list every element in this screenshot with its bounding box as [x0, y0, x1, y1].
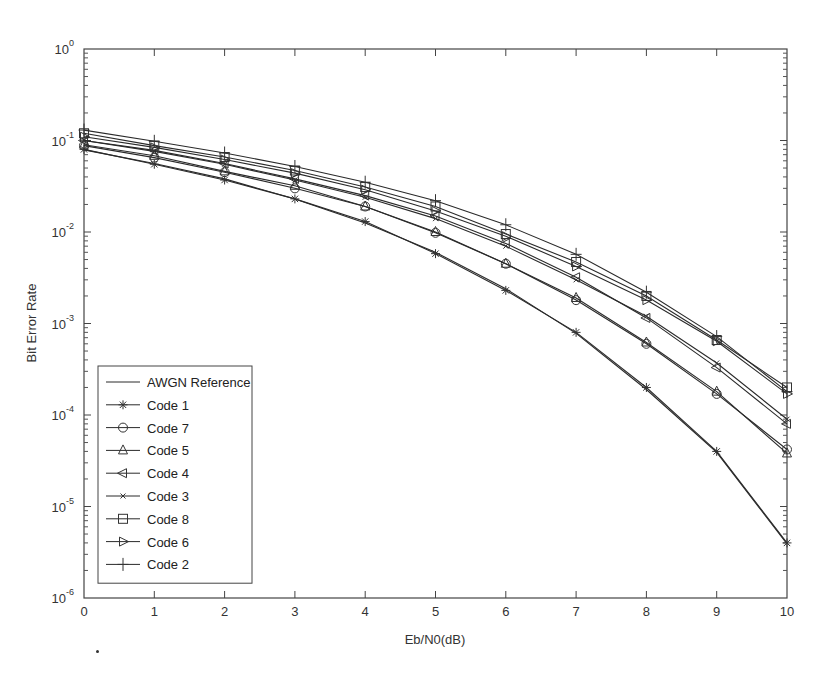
legend: AWGN ReferenceCode 1Code 7Code 5Code 4Co…	[98, 366, 252, 583]
series-code-8	[80, 129, 792, 392]
x-tick-label: 4	[362, 604, 369, 619]
x-tick-label: 8	[643, 604, 650, 619]
x-tick-label: 0	[80, 604, 87, 619]
x-tick-label: 10	[780, 604, 794, 619]
x-axis-label: Eb/N0(dB)	[405, 632, 466, 647]
legend-label: Code 7	[147, 421, 189, 436]
legend-label: Code 5	[147, 443, 189, 458]
x-tick-label: 6	[502, 604, 509, 619]
y-tick-label: 10-6	[52, 587, 74, 606]
footnote-dot	[96, 650, 99, 653]
x-tick-label: 3	[291, 604, 298, 619]
series-code-2	[79, 124, 793, 399]
legend-label: Code 6	[147, 535, 189, 550]
y-tick-label: 10-1	[52, 130, 74, 149]
legend-label: Code 4	[147, 466, 189, 481]
y-tick-label: 10-5	[52, 496, 74, 515]
x-tick-label: 1	[151, 604, 158, 619]
legend-label: Code 1	[147, 398, 189, 413]
y-tick-label: 10-4	[52, 404, 74, 423]
legend-label: AWGN Reference	[147, 375, 251, 390]
y-axis-label: Bit Error Rate	[24, 284, 39, 363]
x-tick-label: 2	[221, 604, 228, 619]
ber-chart: 01234567891010010-110-210-310-410-510-6 …	[0, 0, 836, 677]
y-tick-label: 10-2	[52, 221, 74, 240]
x-tick-label: 9	[713, 604, 720, 619]
y-tick-label: 100	[55, 38, 74, 57]
legend-label: Code 8	[147, 512, 189, 527]
x-tick-label: 5	[432, 604, 439, 619]
x-tick-label: 7	[572, 604, 579, 619]
legend-label: Code 3	[147, 489, 189, 504]
y-tick-label: 10-3	[52, 313, 74, 332]
legend-label: Code 2	[147, 557, 189, 572]
